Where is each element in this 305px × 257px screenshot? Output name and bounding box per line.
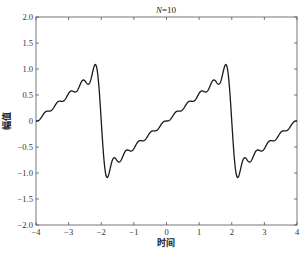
series-line	[36, 65, 297, 178]
x-tick-label: 4	[295, 227, 300, 237]
x-tick-label: 2	[230, 227, 234, 237]
x-axis-tick-labels: −4−3−2−101234	[31, 227, 299, 237]
y-tick-label: 2.0	[22, 12, 33, 22]
y-tick-label: 1.0	[22, 64, 33, 74]
y-tick-label: −1.5	[18, 194, 33, 204]
y-tick-label: 0.5	[22, 90, 33, 100]
y-tick-label: 0	[29, 116, 33, 126]
x-tick-label: 0	[164, 227, 168, 237]
x-tick-label: −4	[31, 227, 41, 237]
y-tick-label: −0.5	[18, 142, 33, 152]
line-chart: N=10 2.01.51.00.50−0.5−1.0−1.5−2.0 −4−3−…	[0, 0, 305, 257]
x-tick-label: −1	[129, 227, 138, 237]
x-tick-label: 3	[262, 227, 266, 237]
x-axis-title: 时间	[157, 237, 175, 248]
x-tick-label: 1	[197, 227, 201, 237]
y-axis-title: 幅值	[1, 112, 12, 130]
y-tick-label: 1.5	[22, 38, 33, 48]
chart-title-value: =10	[162, 5, 177, 15]
y-axis-tick-labels: 2.01.51.00.50−0.5−1.0−1.5−2.0	[18, 12, 33, 230]
x-tick-label: −2	[97, 227, 106, 237]
chart-title: N=10	[155, 5, 177, 15]
x-tick-label: −3	[64, 227, 73, 237]
y-tick-label: −1.0	[18, 168, 33, 178]
